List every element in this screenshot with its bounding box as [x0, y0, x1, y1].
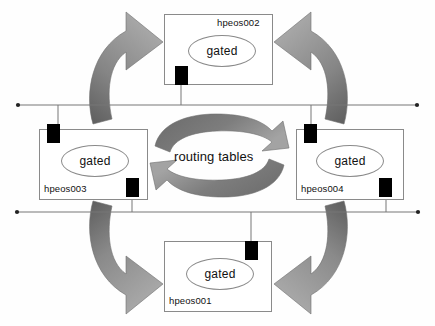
nic-hpeos003-upper[interactable]: [47, 124, 60, 143]
arrow-hpeos003-to-hpeos002: [90, 12, 163, 124]
nic-hpeos004-lower[interactable]: [379, 178, 392, 197]
lower-segment-terminator-left: [15, 210, 19, 214]
upper-segment-terminator-left: [16, 103, 20, 107]
arrow-hpeos003-to-hpeos001: [90, 201, 163, 314]
host-label-hpeos003: hpeos003: [44, 183, 87, 194]
nic-hpeos003-lower[interactable]: [126, 178, 139, 197]
gated-process-hpeos003: gated: [61, 145, 129, 177]
routing-tables-label: routing tables: [174, 149, 253, 164]
routing-tables-diagram: hpeos002 gated hpeos003 gated hpeos004 g…: [0, 0, 435, 326]
gated-process-hpeos001: gated: [186, 258, 254, 290]
nic-hpeos002-upper[interactable]: [175, 66, 188, 85]
host-label-hpeos004: hpeos004: [301, 183, 344, 194]
gated-process-label: gated: [206, 44, 237, 58]
central-cycle-arrow-bottom: [150, 159, 284, 197]
nic-hpeos004-upper[interactable]: [304, 124, 317, 143]
gated-process-label: gated: [79, 154, 110, 168]
arrow-hpeos004-to-hpeos001: [274, 201, 347, 314]
gated-process-label: gated: [204, 267, 235, 281]
central-cycle-arrow-top: [155, 114, 289, 152]
gated-process-label: gated: [334, 154, 365, 168]
host-label-hpeos001: hpeos001: [169, 295, 212, 306]
host-label-hpeos002: hpeos002: [217, 17, 260, 28]
upper-segment-terminator-right: [415, 103, 419, 107]
gated-process-hpeos002: gated: [188, 35, 256, 67]
gated-process-hpeos004: gated: [316, 145, 384, 177]
nic-hpeos001-lower[interactable]: [245, 241, 258, 260]
lower-segment-terminator-right: [416, 210, 420, 214]
